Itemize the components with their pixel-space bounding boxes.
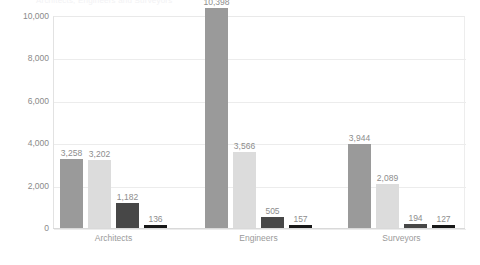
bars-layer: 3,2583,2021,18213610,3983,5665051573,944… [53,16,465,228]
category-label: Engineers [199,233,319,244]
y-tick-label: 10,000 [2,12,49,21]
bar-value-label: 157 [278,214,324,224]
bar [205,8,228,228]
bar-value-label: 1,182 [105,192,151,202]
bar [60,159,83,228]
y-tick-label: 2,000 [2,182,49,191]
bar-value-label: 2,089 [365,173,411,183]
chart-title: Architects, Engineers and Surveyors [36,0,172,5]
bar-chart: Architects, Engineers and Surveyors 02,0… [0,0,480,265]
category-label: Architects [54,233,174,244]
gridline [54,229,466,230]
y-tick-label: 4,000 [2,139,49,148]
chart-title-strip: Architects, Engineers and Surveyors [0,0,480,9]
bar-value-label: 3,566 [222,141,268,151]
category-label: Surveyors [342,233,462,244]
bar-value-label: 10,398 [194,0,240,7]
bar-value-label: 3,944 [337,133,383,143]
bar-value-label: 127 [421,214,467,224]
bar [233,152,256,228]
bar [144,225,167,228]
bar-value-label: 3,202 [77,149,123,159]
bar [432,225,455,228]
y-tick-label: 6,000 [2,97,49,106]
y-tick-label: 8,000 [2,54,49,63]
bar [404,224,427,228]
y-axis-tick-labels: 02,0004,0006,0008,00010,000 [0,0,49,265]
x-axis-line [53,228,465,229]
bar [348,144,371,228]
y-tick-label: 0 [2,224,49,233]
bar [289,225,312,228]
bar-value-label: 136 [133,214,179,224]
